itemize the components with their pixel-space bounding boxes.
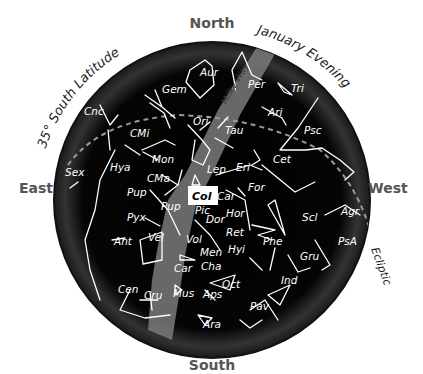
constellation-label-cmi[interactable]: CMi: [130, 127, 149, 139]
constellation-label-mus[interactable]: Mus: [173, 287, 195, 299]
constellation-label-cet[interactable]: Cet: [273, 153, 292, 165]
constellation-label-cma[interactable]: CMa: [147, 172, 170, 184]
constellation-label-men[interactable]: Men: [200, 246, 222, 258]
constellation-label-pav[interactable]: Pav: [250, 300, 270, 312]
constellation-label-car[interactable]: Car: [217, 190, 236, 202]
constellation-label-aur[interactable]: Aur: [199, 66, 219, 78]
south-label: South: [189, 357, 235, 373]
constellation-label-cnc[interactable]: Cnc: [84, 105, 104, 117]
constellation-label-hor[interactable]: Hor: [226, 207, 245, 219]
constellation-label-for[interactable]: For: [248, 181, 265, 193]
constellation-label-vel[interactable]: Vel: [148, 231, 164, 243]
constellation-label-ara[interactable]: Ara: [202, 318, 221, 330]
constellation-label-cha[interactable]: Cha: [201, 260, 221, 272]
constellation-label-mon[interactable]: Mon: [152, 153, 174, 165]
constellation-label-gem[interactable]: Gem: [162, 83, 187, 95]
constellation-label-per[interactable]: Per: [248, 78, 266, 90]
constellation-label-pup[interactable]: Pup: [127, 186, 147, 198]
constellation-label-dor[interactable]: Dor: [206, 213, 226, 225]
constellation-label-tri[interactable]: Tri: [291, 82, 304, 94]
ecliptic-label: Ecliptic: [368, 246, 394, 288]
constellation-label-psc[interactable]: Psc: [304, 124, 322, 136]
constellation-label-ind[interactable]: Ind: [281, 274, 298, 286]
constellation-label-hyi[interactable]: Hyi: [228, 243, 245, 255]
constellation-label-vol[interactable]: Vol: [186, 233, 202, 245]
constellation-label-oct[interactable]: Oct: [222, 278, 241, 290]
constellation-label-phe[interactable]: Phe: [263, 235, 282, 247]
constellation-label-psa[interactable]: PsA: [338, 235, 357, 247]
constellation-label-agr[interactable]: Agr: [340, 205, 360, 217]
west-label: West: [368, 180, 408, 196]
constellation-label-cen[interactable]: Cen: [118, 283, 138, 295]
constellation-label-sex[interactable]: Sex: [65, 166, 85, 178]
constellation-label-hya[interactable]: Hya: [110, 161, 131, 173]
constellation-label-col[interactable]: Col: [192, 190, 212, 203]
constellation-label-scl[interactable]: Scl: [302, 211, 317, 223]
constellation-label-aps[interactable]: Aps: [202, 288, 223, 300]
constellation-label-tau[interactable]: Tau: [225, 124, 244, 136]
constellation-label-ari[interactable]: Ari: [267, 106, 282, 118]
constellation-label-ret[interactable]: Ret: [226, 226, 245, 238]
constellation-label-gru[interactable]: Gru: [300, 250, 319, 262]
constellation-label-ant[interactable]: Ant: [113, 235, 133, 247]
constellation-label-pyx[interactable]: Pyx: [127, 211, 147, 223]
constellation-label-pup[interactable]: Pup: [161, 200, 181, 212]
constellation-label-cru[interactable]: Cru: [144, 289, 163, 301]
constellation-label-ori[interactable]: Ori: [193, 115, 209, 127]
constellation-label-car[interactable]: Car: [174, 262, 193, 274]
constellation-label-eri[interactable]: Eri: [236, 161, 250, 173]
constellation-label-lep[interactable]: Lep: [207, 163, 226, 175]
north-label: North: [190, 15, 235, 31]
star-chart: Milky Way Col AurGemPerTriCncAriCMiOriTa…: [0, 0, 423, 374]
east-label: East: [19, 180, 53, 196]
